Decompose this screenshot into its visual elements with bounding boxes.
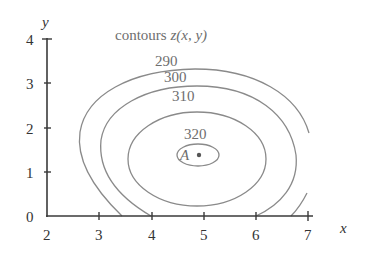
point-a-marker: [197, 153, 201, 157]
y-tick-label-4: 4: [26, 32, 34, 48]
chart-title: contours z(x, y): [115, 27, 207, 44]
x-tick-label-6: 6: [252, 227, 260, 243]
x-tick-label-2: 2: [43, 227, 51, 243]
x-axis-label: x: [339, 220, 347, 236]
contour-plot: A 290 300 310 320 contours z(x, y) 4 3 2…: [0, 0, 368, 258]
x-tick-label-5: 5: [200, 227, 208, 243]
axes: [42, 38, 313, 221]
x-tick-label-7: 7: [304, 227, 312, 243]
x-tick-label-4: 4: [148, 227, 156, 243]
y-tick-label-1: 1: [26, 165, 34, 181]
x-tick-label-3: 3: [95, 227, 103, 243]
y-tick-label-0: 0: [26, 209, 34, 225]
contour-label-320: 320: [184, 126, 207, 142]
y-tick-label-3: 3: [26, 76, 34, 92]
y-axis-label: y: [40, 14, 49, 30]
contour-300: [101, 86, 297, 216]
contour-label-310: 310: [172, 88, 195, 104]
point-a-label: A: [179, 147, 190, 163]
contour-label-290: 290: [155, 53, 178, 69]
contour-290-lower-right: [291, 193, 307, 216]
contour-label-300: 300: [164, 69, 187, 85]
y-tick-label-2: 2: [26, 121, 34, 137]
